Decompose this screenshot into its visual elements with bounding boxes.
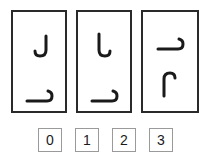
hook-glyphs-icon [78,12,130,111]
puzzle-card-2 [141,10,199,113]
base-hook-icon [92,91,117,101]
l-hook-icon [99,34,110,56]
answer-button-0[interactable]: 0 [38,128,62,152]
hook-glyphs-icon [13,12,65,111]
base-hook-icon [27,91,52,101]
j-hook-icon [35,36,46,56]
hook-glyphs-icon [143,12,197,111]
puzzle-card-1 [76,10,132,113]
answer-options: 0 1 2 3 [0,128,206,152]
answer-button-1[interactable]: 1 [75,128,99,152]
puzzle-card-0 [11,10,67,113]
answer-button-2[interactable]: 2 [112,128,136,152]
answer-button-3[interactable]: 3 [149,128,173,152]
base-hook-icon [158,39,183,49]
arch-hook-icon [164,73,175,96]
